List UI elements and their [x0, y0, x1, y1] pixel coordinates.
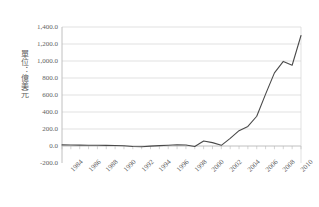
chart-container: 單位：億美元 -200.00.0200.0400.0600.0800.01,00… [0, 0, 319, 207]
y-tick-label: -200.0 [40, 159, 58, 167]
y-tick-label: 1,000.0 [37, 57, 58, 65]
y-tick-label: 400.0 [42, 108, 58, 116]
chart-plot [0, 0, 319, 207]
y-tick-label: 1,400.0 [37, 23, 58, 31]
y-tick-label: 0.0 [49, 142, 58, 150]
y-tick-label: 200.0 [42, 125, 58, 133]
y-tick-label: 800.0 [42, 74, 58, 82]
y-tick-label: 1,200.0 [37, 40, 58, 48]
data-line [62, 36, 301, 147]
y-tick-label: 600.0 [42, 91, 58, 99]
